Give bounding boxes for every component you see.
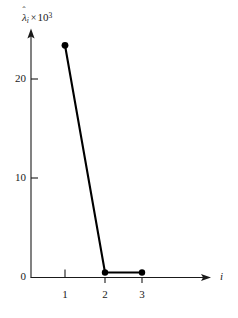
y-tick-marks	[31, 79, 38, 178]
y-tick-label-10: 10	[6, 172, 26, 183]
times-symbol: ×	[29, 12, 38, 23]
data-point-3	[139, 269, 145, 275]
y-tick-label-0: 0	[6, 271, 26, 282]
data-point-markers	[62, 42, 146, 276]
x-tick-label-1: 1	[55, 289, 75, 300]
data-point-2	[102, 269, 108, 275]
hat-accent-icon: ˆ	[23, 6, 26, 15]
chart-figure: 20 10 0 1 2 3 ˆλi×103 i	[0, 0, 238, 318]
x-axis-title: i	[220, 271, 223, 282]
data-series-line	[65, 45, 142, 272]
plot-canvas	[0, 0, 238, 318]
y-axis-title: ˆλi×103	[22, 12, 52, 25]
x-tick-label-3: 3	[132, 289, 152, 300]
y-axis-group	[27, 29, 34, 278]
power-base: 10	[38, 11, 49, 23]
data-point-1	[62, 42, 69, 49]
x-axis-group	[31, 274, 212, 281]
power-exponent: 3	[49, 11, 53, 20]
x-tick-label-2: 2	[95, 289, 115, 300]
lambda-symbol: ˆλ	[22, 12, 27, 23]
y-tick-label-20: 20	[6, 73, 26, 84]
